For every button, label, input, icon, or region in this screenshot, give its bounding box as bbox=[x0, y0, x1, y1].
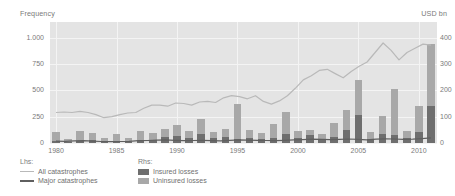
legend-label: Insured losses bbox=[153, 168, 198, 175]
left-axis-tick-label: 250 bbox=[0, 113, 44, 120]
right-axis-tick-label: 300 bbox=[440, 60, 455, 67]
x-axis-tick-label: 1980 bbox=[36, 147, 76, 154]
major-catastrophes-line bbox=[56, 138, 431, 142]
legend-lhs-header: Lhs: bbox=[20, 158, 98, 165]
legend-label: Uninsured losses bbox=[153, 177, 207, 184]
right-axis-title: USD bn bbox=[421, 9, 447, 18]
x-axis-tick-label: 2005 bbox=[338, 147, 378, 154]
x-axis-tick-label: 2010 bbox=[399, 147, 439, 154]
right-axis-tick-label: 100 bbox=[440, 113, 455, 120]
catastrophe-losses-chart: Frequency USD bn 02505007501.000 0100200… bbox=[0, 0, 455, 196]
right-axis-tick-label: 400 bbox=[440, 34, 455, 41]
legend-item-insured-losses: Insured losses bbox=[138, 167, 207, 176]
right-axis-tick-label: 200 bbox=[440, 86, 455, 93]
right-axis-tick-label: 0 bbox=[440, 139, 455, 146]
left-axis-tick-label: 0 bbox=[0, 139, 44, 146]
legend-rhs-header: Rhs: bbox=[138, 158, 207, 165]
legend-label: All catastrophes bbox=[38, 168, 88, 175]
legend-rhs-column: Rhs: Insured losses Uninsured losses bbox=[138, 158, 207, 185]
left-axis-title: Frequency bbox=[20, 9, 55, 18]
legend-item-uninsured-losses: Uninsured losses bbox=[138, 176, 207, 185]
x-axis-tick-label: 1990 bbox=[157, 147, 197, 154]
legend-item-major-catastrophes: Major catastrophes bbox=[20, 176, 98, 185]
legend-lhs-column: Lhs: All catastrophes Major catastrophes bbox=[20, 158, 98, 185]
left-axis-tick-label: 500 bbox=[0, 86, 44, 93]
box-swatch-icon bbox=[138, 169, 149, 175]
plot-area bbox=[50, 22, 437, 143]
gridline bbox=[50, 143, 437, 144]
line-group bbox=[50, 22, 437, 143]
left-axis-tick-label: 750 bbox=[0, 60, 44, 67]
left-axis-tick-label: 1.000 bbox=[0, 34, 44, 41]
line-swatch-icon bbox=[20, 180, 34, 182]
line-swatch-icon bbox=[20, 171, 34, 172]
x-axis-tick-label: 1995 bbox=[217, 147, 257, 154]
x-axis-tick-label: 2000 bbox=[278, 147, 318, 154]
box-swatch-icon bbox=[138, 178, 149, 184]
legend-item-all-catastrophes: All catastrophes bbox=[20, 167, 98, 176]
x-axis-tick-label: 1985 bbox=[97, 147, 137, 154]
legend-label: Major catastrophes bbox=[38, 177, 98, 184]
all-catastrophes-line bbox=[56, 43, 431, 118]
